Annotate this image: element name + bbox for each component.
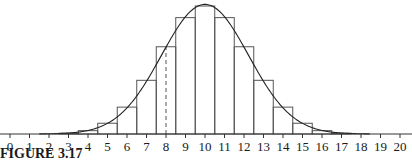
histogram-bar bbox=[195, 6, 215, 134]
x-tick-label: 15 bbox=[296, 139, 309, 154]
x-tick-label: 10 bbox=[199, 139, 212, 154]
x-tick-label: 20 bbox=[394, 139, 407, 154]
x-tick-label: 13 bbox=[257, 139, 270, 154]
histogram-bar bbox=[293, 123, 313, 134]
histogram-bars bbox=[59, 6, 352, 134]
x-tick-label: 18 bbox=[355, 139, 368, 154]
x-tick-label: 16 bbox=[316, 139, 330, 154]
histogram-bar bbox=[137, 80, 157, 134]
x-tick-label: 8 bbox=[163, 139, 170, 154]
histogram-bar bbox=[117, 107, 137, 134]
x-tick-label: 7 bbox=[143, 139, 150, 154]
histogram-bar bbox=[176, 18, 196, 134]
x-tick-label: 4 bbox=[85, 139, 92, 154]
histogram-bar bbox=[215, 18, 235, 134]
x-tick-label: 19 bbox=[374, 139, 387, 154]
x-tick-label: 6 bbox=[124, 139, 131, 154]
x-tick-label: 11 bbox=[218, 139, 231, 154]
x-tick-label: 14 bbox=[277, 139, 291, 154]
figure-caption: FIGURE 3.17 bbox=[0, 146, 82, 162]
histogram-chart: 01234567891011121314151617181920 bbox=[0, 0, 412, 164]
x-tick-label: 12 bbox=[238, 139, 251, 154]
histogram-bar bbox=[254, 80, 274, 134]
histogram-bar bbox=[273, 107, 293, 134]
histogram-bar bbox=[98, 123, 118, 134]
x-tick-label: 5 bbox=[104, 139, 111, 154]
normal-curve bbox=[39, 4, 370, 134]
x-tick-label: 9 bbox=[182, 139, 189, 154]
x-tick-label: 17 bbox=[335, 139, 349, 154]
